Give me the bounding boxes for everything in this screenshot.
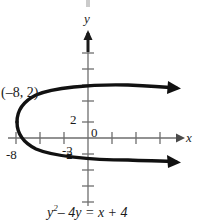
vertex-point-label: (–8, 2) xyxy=(1,86,38,100)
y-tick-label-neg2: -2 xyxy=(62,144,73,157)
x-tick-label-neg8: -8 xyxy=(6,148,17,161)
x-axis-arrowhead xyxy=(176,134,185,143)
figure-canvas: (–8, 2) y x -8 -2 2 -2 0 y2– 4y = x + 4 xyxy=(0,0,200,224)
origin-label: 0 xyxy=(91,126,98,139)
y-tick-label-2: 2 xyxy=(70,113,77,126)
graph-plot xyxy=(0,0,200,224)
equation-rest: – 4y = x + 4 xyxy=(58,205,128,220)
parabola-lower-arrowhead xyxy=(167,155,181,168)
parabola-upper-branch xyxy=(17,85,176,122)
parabola-curve xyxy=(17,81,181,168)
equation-caption: y2– 4y = x + 4 xyxy=(47,204,128,220)
parabola-upper-arrowhead xyxy=(167,81,181,94)
x-axis-label: x xyxy=(186,131,192,144)
y-axis-group xyxy=(82,30,94,206)
y-axis-label: y xyxy=(84,12,90,25)
